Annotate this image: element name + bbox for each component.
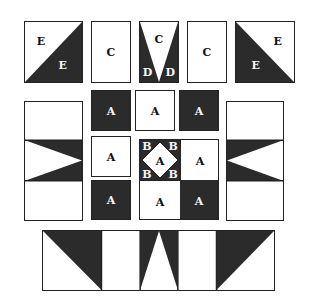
piece-d-flying-geese: C D D — [139, 21, 179, 83]
label-b-top-left: B — [142, 141, 151, 152]
label-d-left: D — [143, 67, 153, 78]
label-e-light: E — [37, 36, 45, 47]
strip-e-right-triangle — [216, 231, 274, 290]
label-c: C — [203, 47, 212, 58]
label-e-light: E — [274, 36, 282, 47]
piece-c-rect-2: C — [187, 21, 227, 83]
label-a: A — [195, 196, 204, 207]
center-cell-bottom-left: A — [140, 180, 180, 220]
strip-d-right-triangle — [159, 231, 178, 290]
side-unit-right-shape — [227, 102, 283, 220]
label-b-bottom-right: B — [169, 169, 178, 180]
side-unit-right — [226, 101, 284, 221]
assembled-row-strip — [42, 230, 275, 291]
label-a: A — [196, 155, 205, 166]
label-c: C — [107, 47, 116, 58]
half-square-triangle-shape — [236, 22, 294, 82]
label-e-dark: E — [58, 60, 66, 71]
a-square-bottom-left: A — [91, 180, 131, 220]
center-cell-bottom-right: A — [180, 180, 218, 219]
label-b-top-right: B — [169, 141, 178, 152]
strip-e-left-triangle — [43, 231, 101, 290]
assembled-row-shape — [43, 231, 274, 290]
label-e-dark: E — [252, 60, 260, 71]
label-a: A — [156, 197, 165, 208]
center-cell-top-right: A — [180, 140, 219, 180]
piece-c-rect-1: C — [91, 21, 131, 83]
label-a: A — [151, 106, 160, 117]
label-a: A — [107, 195, 116, 206]
square-in-square: A B B B B — [140, 140, 180, 180]
strip-d-left-triangle — [140, 231, 159, 290]
side-unit-left — [24, 101, 83, 221]
piece-e-square-left: E E — [24, 21, 83, 83]
label-d-right: D — [166, 67, 176, 78]
label-a: A — [195, 105, 204, 116]
a-square-top-center: A — [135, 90, 175, 131]
side-unit-left-shape — [25, 102, 82, 220]
a-square-top-left: A — [91, 90, 131, 131]
label-a: A — [107, 105, 116, 116]
label-b-bottom-left: B — [142, 169, 151, 180]
label-a-center: A — [156, 155, 165, 166]
label-c-center: C — [155, 33, 164, 44]
half-square-triangle-shape — [25, 22, 82, 82]
label-a: A — [107, 151, 116, 162]
a-square-top-right: A — [179, 90, 219, 131]
a-square-mid-left: A — [91, 136, 131, 177]
piece-e-square-right: E E — [235, 21, 295, 83]
center-block: A B B B B A A A — [139, 139, 219, 220]
